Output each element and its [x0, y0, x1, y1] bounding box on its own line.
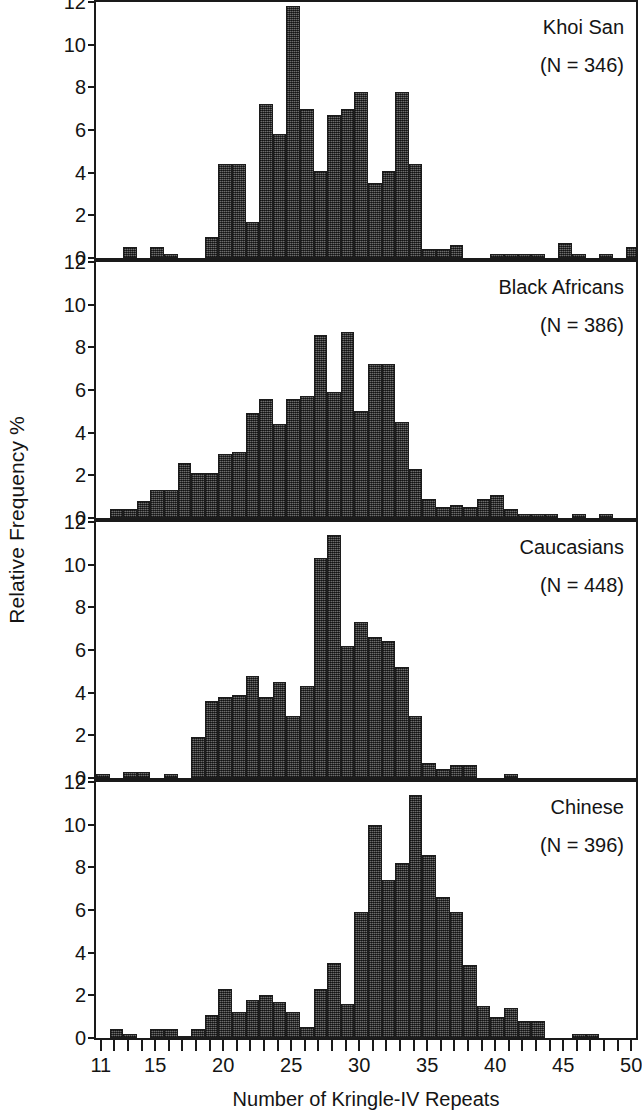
panel-sample-size: (N = 386) — [540, 314, 624, 337]
bar — [191, 737, 205, 778]
bar — [273, 682, 287, 778]
y-tick-label: 6 — [75, 119, 86, 142]
x-tick-mark — [562, 1040, 564, 1051]
bar — [314, 171, 328, 258]
bar — [531, 1021, 545, 1038]
x-tick-mark — [222, 1040, 224, 1051]
bar — [436, 769, 450, 778]
panel-title: Chinese — [551, 796, 624, 819]
bar — [382, 364, 396, 518]
y-tick-label: 10 — [64, 293, 86, 316]
x-tick-mark — [481, 1040, 483, 1051]
panel-khoi-san: 024681012Khoi San(N = 346) — [34, 0, 638, 260]
bar — [626, 247, 638, 258]
bar — [232, 164, 246, 258]
bar — [137, 501, 151, 518]
bar — [164, 1029, 178, 1038]
bar — [368, 637, 382, 778]
bar — [300, 1027, 314, 1038]
bar — [164, 254, 178, 258]
bar-series — [96, 262, 636, 518]
plot-area: Chinese(N = 396) — [94, 780, 638, 1040]
bar — [123, 509, 137, 518]
y-tick-label: 8 — [75, 76, 86, 99]
bar-series — [96, 782, 636, 1038]
bar — [368, 183, 382, 258]
panel-caucasians: 024681012Caucasians(N = 448) — [34, 520, 638, 780]
y-tick-label: 4 — [75, 681, 86, 704]
bar — [150, 247, 164, 258]
y-tick-label: 2 — [75, 724, 86, 747]
x-tick-mark — [154, 1040, 156, 1051]
bar — [178, 463, 192, 518]
bar — [341, 109, 355, 258]
bar — [341, 646, 355, 778]
x-tick-mark — [630, 1040, 632, 1051]
bar — [354, 912, 368, 1038]
y-tick-label: 4 — [75, 941, 86, 964]
bar — [504, 1008, 518, 1038]
x-tick-mark — [413, 1040, 415, 1051]
bar — [450, 245, 464, 258]
x-tick-mark — [399, 1040, 401, 1051]
bar — [259, 697, 273, 778]
bar — [422, 499, 436, 518]
bar — [150, 490, 164, 518]
bar — [300, 686, 314, 778]
bar — [232, 1012, 246, 1038]
x-tick-mark — [385, 1040, 387, 1051]
bar — [368, 825, 382, 1038]
y-tick-label: 8 — [75, 856, 86, 879]
bar — [436, 249, 450, 258]
bar — [327, 115, 341, 258]
bar — [422, 249, 436, 258]
bar — [164, 490, 178, 518]
bar — [110, 1029, 124, 1038]
bar — [205, 1015, 219, 1038]
bar — [259, 995, 273, 1038]
y-tick-label: 10 — [64, 813, 86, 836]
x-tick-mark — [100, 1040, 102, 1051]
bar — [341, 332, 355, 518]
x-tick-mark — [453, 1040, 455, 1051]
y-axis-title: Relative Frequency % — [5, 416, 29, 623]
x-tick-mark — [290, 1040, 292, 1051]
bar — [599, 254, 613, 258]
panel-sample-size: (N = 346) — [540, 54, 624, 77]
x-tick-mark — [181, 1040, 183, 1051]
y-tick-label: 8 — [75, 336, 86, 359]
bar — [409, 716, 423, 778]
bar — [572, 1034, 586, 1038]
bar — [218, 697, 232, 778]
bar — [368, 364, 382, 518]
y-tick-label: 12 — [64, 251, 86, 274]
bar — [450, 505, 464, 518]
x-tick-label: 20 — [212, 1054, 234, 1077]
x-tick-mark — [549, 1040, 551, 1051]
x-tick-mark — [195, 1040, 197, 1051]
y-axis-ticks: 024681012 — [34, 520, 94, 780]
bar — [205, 237, 219, 258]
bar — [178, 1036, 192, 1038]
x-tick-mark — [331, 1040, 333, 1051]
x-tick-label: 25 — [280, 1054, 302, 1077]
bar — [327, 392, 341, 518]
x-tick-mark — [113, 1040, 115, 1051]
y-tick-label: 4 — [75, 161, 86, 184]
bar — [463, 765, 477, 778]
bar — [382, 641, 396, 778]
bar — [246, 222, 260, 258]
plot-area: Khoi San(N = 346) — [94, 0, 638, 260]
bar — [232, 452, 246, 518]
bar — [246, 413, 260, 518]
panel-sample-size: (N = 448) — [540, 574, 624, 597]
bar — [150, 1029, 164, 1038]
y-axis-title-container: Relative Frequency % — [0, 0, 34, 1040]
bar — [531, 514, 545, 518]
bar — [96, 774, 110, 778]
bar — [409, 164, 423, 258]
bar — [504, 774, 518, 778]
x-tick-mark — [603, 1040, 605, 1051]
bar — [572, 514, 586, 518]
y-tick-label: 10 — [64, 553, 86, 576]
